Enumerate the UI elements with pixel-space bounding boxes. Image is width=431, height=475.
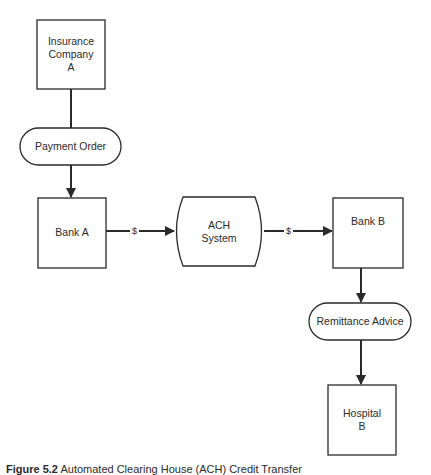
edge-label-dollar-1: $: [130, 226, 139, 236]
node-bank-b: Bank B: [333, 198, 403, 244]
node-label-line: B: [358, 420, 365, 433]
node-label-line: Company: [49, 48, 94, 61]
node-hospital-b: Hospital B: [328, 385, 396, 455]
node-label-line: A: [67, 61, 74, 74]
node-payment-order: Payment Order: [20, 128, 121, 165]
node-bank-a: Bank A: [38, 198, 106, 266]
node-label-line: Payment Order: [35, 140, 106, 153]
node-insurance-company-a: Insurance Company A: [37, 20, 105, 89]
node-label-line: Insurance: [48, 35, 94, 48]
figure-caption: Figure 5.2 Automated Clearing House (ACH…: [6, 463, 302, 475]
figure-caption-text: Automated Clearing House (ACH) Credit Tr…: [60, 463, 301, 475]
figure-number: Figure 5.2: [6, 463, 58, 475]
node-label-line: Bank A: [55, 226, 88, 239]
node-label-line: Bank B: [351, 215, 385, 228]
node-remittance-advice: Remittance Advice: [309, 303, 411, 340]
node-label-line: Hospital: [343, 407, 381, 420]
edge-label-dollar-2: $: [284, 226, 293, 236]
node-label-line: Remittance Advice: [317, 315, 404, 328]
node-ach-system: ACH System: [175, 197, 263, 266]
node-label-line: ACH: [208, 219, 230, 232]
node-label-line: System: [201, 232, 236, 245]
